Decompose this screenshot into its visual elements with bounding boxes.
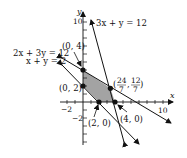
vertex-label-0-2: (0, 2) [59, 83, 82, 93]
y-tick-10: 10 [73, 17, 83, 26]
x-tick-10: 10 [158, 106, 168, 115]
svg-text:): ) [140, 79, 143, 89]
svg-text:24: 24 [117, 76, 127, 85]
label-3x-plus-y-12: 3x + y = 12 [96, 18, 147, 28]
vertex-label-4-0: (4, 0) [120, 114, 143, 124]
svg-text:7: 7 [133, 85, 138, 94]
y-tick-neg2: −2 [72, 114, 83, 123]
vertex-label-0-4: (0, 4) [62, 41, 85, 51]
line-x-plus-y-2 [62, 65, 139, 144]
y-axis-label: y [76, 7, 82, 16]
x-tick-neg2: −2 [61, 105, 72, 114]
x-axis-label: x [170, 91, 175, 100]
svg-text:,: , [127, 79, 130, 89]
svg-text:(: ( [113, 79, 116, 89]
svg-text:7: 7 [119, 85, 124, 94]
vertex-label-2-0: (2, 0) [88, 118, 111, 128]
label-x-plus-y-2: x + y = 2 [26, 56, 66, 66]
